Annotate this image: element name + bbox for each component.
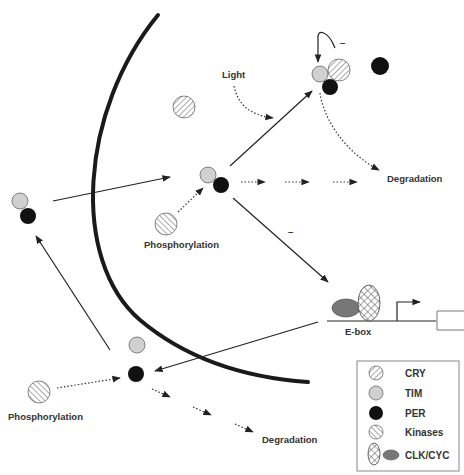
minus-label-mid: – <box>288 226 293 237</box>
dotted-arrow-b3 <box>235 424 253 432</box>
light-label: Light <box>222 69 246 80</box>
tim-per-complex-left <box>12 193 36 224</box>
phosphorylation-arrow-center <box>178 188 203 212</box>
ebox-label: E-box <box>345 326 372 337</box>
degradation-label-top: Degradation <box>387 173 443 184</box>
legend-clkcyc-label: CLK/CYC <box>405 450 449 461</box>
kinase-bottom <box>28 381 50 403</box>
tim-cry-per-complex-top <box>312 59 350 95</box>
degradation-arrow-top <box>320 93 379 170</box>
light-arrow <box>234 86 273 118</box>
legend-clk-icon <box>368 443 380 465</box>
phosphorylation-arrow-bottom <box>57 378 120 388</box>
inhibition-line-to-ebox <box>233 198 328 282</box>
legend-cry-icon <box>369 366 383 380</box>
dotted-arrow-b1 <box>152 389 170 397</box>
arrow-to-cry-complex <box>230 91 312 166</box>
legend-tim-label: TIM <box>405 388 422 399</box>
ebox-promoter <box>327 285 464 330</box>
legend-per-icon <box>369 406 383 420</box>
kinase-center <box>155 213 177 235</box>
legend: CRY TIM PER Kinases CLK/CYC <box>357 361 459 471</box>
legend-per-label: PER <box>405 408 426 419</box>
circadian-diagram: Light Phosphorylation – – Degradation E-… <box>0 0 464 475</box>
dotted-arrow-b2 <box>193 407 211 415</box>
legend-tim-icon <box>369 386 383 400</box>
legend-kinases-icon <box>369 425 383 439</box>
phosphorylation-label-bottom: Phosphorylation <box>8 411 83 422</box>
nuclear-membrane <box>93 15 308 382</box>
minus-label-top: – <box>340 37 345 48</box>
arrow-nuclear-entry <box>53 177 170 201</box>
tim-per-bottom <box>128 337 145 382</box>
cry-center <box>173 96 195 118</box>
legend-cry-label: CRY <box>405 368 426 379</box>
degradation-label-bottom: Degradation <box>262 434 318 445</box>
feedback-loop-arrow <box>318 32 335 62</box>
legend-cyc-icon <box>383 450 399 460</box>
phosphorylation-label-center: Phosphorylation <box>144 239 219 250</box>
tim-per-complex-center <box>200 167 229 193</box>
legend-kinases-label: Kinases <box>405 427 444 438</box>
per-free-top <box>371 57 389 75</box>
